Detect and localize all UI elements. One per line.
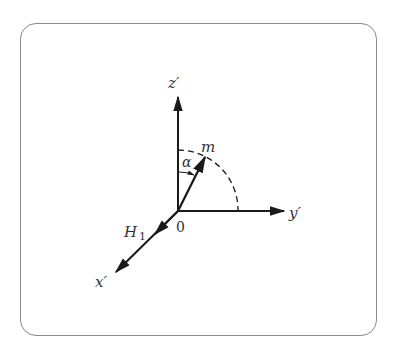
angle-alpha-arc xyxy=(178,172,194,175)
y-axis-label: y′ xyxy=(288,204,301,222)
field-h-subscript: 1 xyxy=(139,230,146,243)
vector-m-label: m xyxy=(201,138,215,156)
origin-label: 0 xyxy=(176,219,185,235)
z-axis-label: z′ xyxy=(167,74,180,92)
coordinate-diagram: z′ y′ x′ m α H 1 0 xyxy=(0,0,398,357)
angle-alpha-label: α xyxy=(182,154,192,170)
field-h-label: H xyxy=(123,223,138,241)
x-axis-label: x′ xyxy=(95,273,107,291)
field-h1-arrow xyxy=(155,211,178,234)
